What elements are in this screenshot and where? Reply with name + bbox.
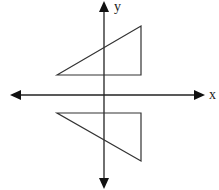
y-axis-down-arrow-icon [99, 178, 109, 189]
y-axis-up-arrow-icon [99, 1, 109, 12]
x-axis-right-arrow-icon [194, 90, 205, 100]
lower-triangle [57, 113, 141, 161]
x-axis-left-arrow-icon [10, 90, 21, 100]
x-axis-label: x [209, 87, 216, 102]
upper-triangle [57, 26, 141, 75]
coordinate-plane: x y [0, 0, 219, 190]
y-axis-label: y [114, 0, 121, 14]
